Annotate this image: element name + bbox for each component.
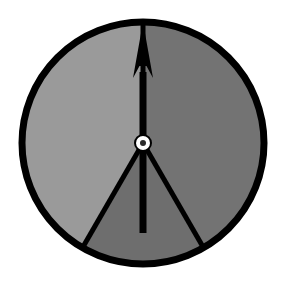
dial-figure <box>0 0 284 284</box>
hub-center-dot <box>140 140 146 146</box>
needle-shaft <box>140 72 147 233</box>
dial-svg <box>0 0 284 284</box>
hub-group <box>134 134 152 152</box>
